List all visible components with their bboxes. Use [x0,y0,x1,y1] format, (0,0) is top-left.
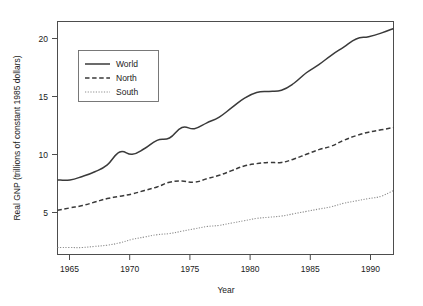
y-tick-label-10: 10 [39,150,49,160]
x-tick-label-1975: 1975 [180,264,199,274]
legend-label-south: South [116,87,138,97]
x-tick-label-1965: 1965 [60,264,79,274]
y-axis-title: Real GNP (trillions of constant 1985 dol… [12,55,22,220]
x-axis-title: Year [217,285,234,295]
chart-background [0,0,423,306]
legend-label-north: North [116,73,137,83]
y-tick-label-5: 5 [43,208,48,218]
x-tick-label-1990: 1990 [361,264,380,274]
y-tick-label-20: 20 [39,34,49,44]
legend: World North South [79,51,159,102]
y-tick-label-15: 15 [39,92,49,102]
x-tick-label-1980: 1980 [241,264,260,274]
gnp-line-chart-figure: 20 15 10 5 1965 1970 1975 1980 1985 1990… [0,0,423,306]
x-tick-label-1985: 1985 [301,264,320,274]
chart-canvas: 20 15 10 5 1965 1970 1975 1980 1985 1990… [0,0,423,306]
x-tick-label-1970: 1970 [120,264,139,274]
legend-label-world: World [116,59,138,69]
